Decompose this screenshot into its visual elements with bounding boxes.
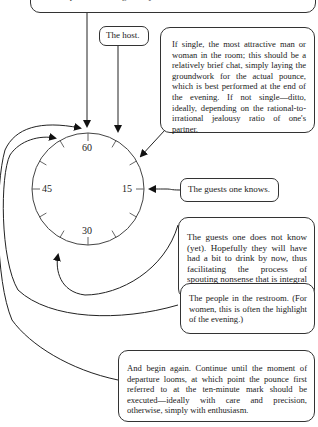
clock-label-15: 15 bbox=[122, 183, 132, 194]
note-guests-known: The guests one knows. bbox=[180, 178, 279, 202]
clock-label-30: 30 bbox=[82, 225, 92, 236]
note-begin-again: And begin again. Continue until the mome… bbox=[118, 350, 315, 422]
note-restroom: The people in the restroom. (For women, … bbox=[180, 283, 315, 334]
note-top-famous-person: famous person standing nearby. bbox=[30, 0, 316, 13]
clock-label-45: 45 bbox=[42, 183, 52, 194]
clock-label-60: 60 bbox=[82, 142, 92, 153]
note-host: The host. bbox=[99, 26, 149, 46]
note-attractive-person: If single, the most attractive man or wo… bbox=[160, 27, 315, 133]
